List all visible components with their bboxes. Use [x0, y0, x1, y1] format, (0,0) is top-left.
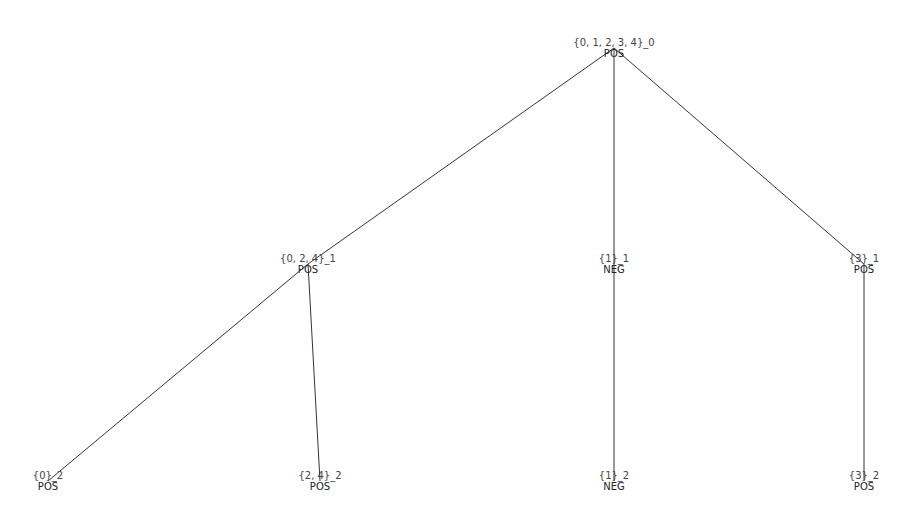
- node-set-label: {2, 4}_2: [298, 470, 341, 481]
- node-class-label: POS: [280, 264, 336, 275]
- tree-diagram-canvas: [0, 0, 913, 521]
- node-set-label: {1}_1: [599, 253, 629, 264]
- node-set-label: {1}_2: [599, 470, 629, 481]
- tree-node-level1-left: {0, 2, 4}_1 POS: [280, 253, 336, 275]
- tree-edge: [308, 264, 320, 481]
- tree-node-level2-b: {2, 4}_2 POS: [298, 470, 341, 492]
- tree-edge: [308, 48, 614, 264]
- tree-node-level2-c: {1}_2 NEG: [599, 470, 629, 492]
- node-class-label: POS: [849, 264, 879, 275]
- edge-layer: [48, 48, 864, 481]
- tree-edge: [48, 264, 308, 481]
- node-set-label: {0, 2, 4}_1: [280, 253, 336, 264]
- node-set-label: {0, 1, 2, 3, 4}_0: [573, 37, 654, 48]
- node-class-label: NEG: [599, 264, 629, 275]
- tree-node-level2-d: {3}_2 POS: [849, 470, 879, 492]
- node-set-label: {3}_1: [849, 253, 879, 264]
- node-set-label: {3}_2: [849, 470, 879, 481]
- node-class-label: POS: [33, 481, 63, 492]
- node-class-label: POS: [573, 48, 654, 59]
- tree-node-level1-middle: {1}_1 NEG: [599, 253, 629, 275]
- node-set-label: {0}_2: [33, 470, 63, 481]
- tree-node-level2-a: {0}_2 POS: [33, 470, 63, 492]
- tree-edge: [614, 48, 864, 264]
- node-class-label: NEG: [599, 481, 629, 492]
- node-class-label: POS: [849, 481, 879, 492]
- tree-node-root: {0, 1, 2, 3, 4}_0 POS: [573, 37, 654, 59]
- node-class-label: POS: [298, 481, 341, 492]
- tree-node-level1-right: {3}_1 POS: [849, 253, 879, 275]
